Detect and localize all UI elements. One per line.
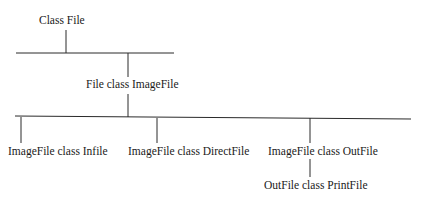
node-imagefile: File class ImageFile [86, 77, 179, 91]
connector-lines [0, 0, 421, 197]
node-class-file: Class File [39, 13, 85, 27]
node-printfile: OutFile class PrintFile [264, 178, 368, 192]
node-infile: ImageFile class Infile [8, 144, 108, 158]
node-outfile: ImageFile class OutFile [268, 144, 378, 158]
node-directfile: ImageFile class DirectFile [128, 144, 249, 158]
level2-bus [15, 116, 411, 119]
